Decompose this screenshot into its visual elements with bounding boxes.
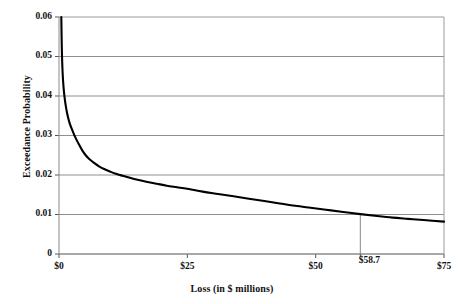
x-tick-label: $50 [286,261,346,271]
y-tick-label: 0.04 [6,90,52,100]
y-tick-label: 0.05 [6,50,52,60]
axis-ticks [55,17,444,258]
x-tick-label: $25 [157,261,217,271]
annotation-label: $58.7 [339,255,399,265]
y-tick-label: 0.02 [6,169,52,179]
data-series-line [61,17,444,222]
y-tick-label: 0.03 [6,129,52,139]
y-tick-label: 0 [6,248,52,258]
gridlines [59,17,444,254]
x-tick-label: $75 [414,261,464,271]
exceedance-probability-chart: Exceedance Probability Loss (in $ millio… [0,0,464,304]
y-tick-label: 0.06 [6,11,52,21]
y-tick-label: 0.01 [6,208,52,218]
x-tick-label: $0 [29,261,89,271]
